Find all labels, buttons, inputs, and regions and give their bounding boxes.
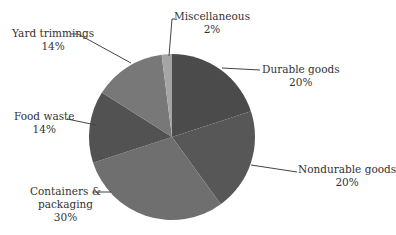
- label-containers-name: Containers &: [30, 185, 101, 198]
- pie-slices: [89, 54, 255, 220]
- label-food-waste-value: 14%: [14, 123, 74, 136]
- label-durable-goods-value: 20%: [262, 76, 340, 89]
- label-containers-value: 30%: [30, 211, 101, 224]
- label-durable-goods: Durable goods 20%: [262, 63, 340, 89]
- label-nondurable-goods-name: Nondurable goods: [298, 163, 396, 176]
- label-miscellaneous-name: Miscellaneous: [174, 10, 250, 23]
- label-durable-goods-name: Durable goods: [262, 63, 340, 76]
- label-yard-trimmings: Yard trimmings 14%: [12, 27, 94, 53]
- label-containers-name2: packaging: [30, 198, 101, 211]
- label-nondurable-goods: Nondurable goods 20%: [298, 163, 396, 189]
- leader-nondurable-goods: [251, 165, 297, 172]
- label-nondurable-goods-value: 20%: [298, 176, 396, 189]
- label-food-waste-name: Food waste: [14, 110, 74, 123]
- label-miscellaneous: Miscellaneous 2%: [174, 10, 250, 36]
- label-miscellaneous-value: 2%: [174, 23, 250, 36]
- label-containers-packaging: Containers & packaging 30%: [30, 185, 101, 224]
- label-yard-trimmings-value: 14%: [12, 40, 94, 53]
- label-yard-trimmings-name: Yard trimmings: [12, 27, 94, 40]
- leader-durable-goods: [222, 68, 260, 70]
- label-food-waste: Food waste 14%: [14, 110, 74, 136]
